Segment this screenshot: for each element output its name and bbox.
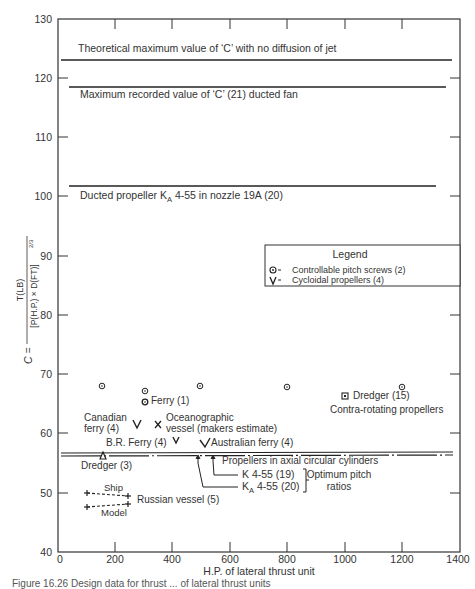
label-optimum-2: ratios: [327, 481, 351, 492]
label-oceanographic-1: Oceanographic: [166, 412, 234, 423]
v-marker: [133, 420, 141, 428]
x-axis-label: H.P. of lateral thrust unit: [203, 565, 314, 577]
svg-text:T(LB): T(LB): [15, 279, 25, 302]
svg-text:1200: 1200: [390, 553, 414, 565]
label-ship: Ship: [104, 482, 123, 493]
label-canadian-1: Canadian: [84, 412, 127, 423]
oceanographic-x-marker: [155, 421, 161, 428]
label-contra-rotating: Contra-rotating propellers: [330, 404, 443, 415]
ref-label-ducted: Ducted propeller KA 4-55 in nozzle 19A (…: [80, 189, 283, 204]
x-tick-labels: 0 200 400 600 800 1000 1200 1400: [57, 553, 470, 565]
label-ka455-20: KA 4-55 (20): [242, 480, 300, 495]
svg-text:130: 130: [34, 13, 52, 25]
svg-text:50: 50: [40, 487, 52, 499]
svg-text:1000: 1000: [333, 553, 357, 565]
v-marker: [173, 437, 179, 443]
svg-text:90: 90: [40, 250, 52, 262]
svg-text:100: 100: [34, 190, 52, 202]
svg-text:[P(H.P.) × D(FT)]: [P(H.P.) × D(FT)]: [29, 264, 39, 327]
svg-text:0: 0: [57, 553, 63, 565]
label-optimum-1: Optimum pitch: [307, 469, 371, 480]
label-oceanographic-2: vessel (makers estimate): [166, 423, 277, 434]
v-marker: [200, 438, 210, 447]
svg-text:400: 400: [163, 553, 181, 565]
label-australian-ferry: Australian ferry (4): [211, 437, 293, 448]
svg-text:800: 800: [278, 553, 296, 565]
label-k455-19: K 4-55 (19): [242, 468, 295, 480]
circle-dot-marker: [399, 384, 405, 390]
ref-label-theoretical: Theoretical maximum value of ‘C’ with no…: [78, 42, 337, 54]
svg-text:110: 110: [35, 131, 52, 143]
label-russian-vessel: Russian vessel (5): [137, 494, 219, 505]
y-axis-label: C = T(LB) [P(H.P.) × D(FT)] 2/3: [15, 236, 39, 364]
figure-caption: Figure 16.26 Design data for thrust ... …: [12, 578, 270, 589]
svg-text:120: 120: [34, 72, 52, 84]
legend-title: Legend: [332, 248, 367, 260]
label-dredger-3: Dredger (3): [81, 460, 132, 471]
circle-dot-marker: [99, 383, 105, 389]
dredger-15-marker: [342, 393, 348, 399]
svg-text:600: 600: [221, 553, 239, 565]
svg-text:C =: C =: [22, 347, 34, 364]
ferry-marker: [142, 399, 148, 405]
svg-text:60: 60: [40, 427, 52, 439]
left-ticks: [58, 78, 68, 493]
legend-label-cp: Controllable pitch screws (2): [292, 265, 406, 275]
label-model: Model: [101, 507, 127, 518]
svg-text:1400: 1400: [446, 553, 470, 565]
legend-label-cyc: Cycloidal propellers (4): [292, 275, 384, 285]
legend: Legend Controllable pitch screws (2) Cyc…: [265, 245, 460, 286]
ref-label-recorded: Maximum recorded value of ‘C’ (21) ducte…: [80, 88, 298, 100]
svg-text:70: 70: [40, 368, 52, 380]
svg-text:80: 80: [40, 309, 52, 321]
label-dredger-15: Dredger (15): [353, 390, 410, 401]
circle-dot-marker: [142, 388, 148, 394]
circle-dot-marker: [284, 384, 290, 390]
label-br-ferry: B.R. Ferry (4): [106, 437, 167, 448]
circle-dot-marker: [197, 383, 203, 389]
svg-text:200: 200: [106, 553, 124, 565]
label-canadian-2: ferry (4): [84, 423, 119, 434]
svg-text:2/3: 2/3: [28, 239, 34, 248]
bottom-ticks: [115, 542, 402, 552]
svg-text:40: 40: [40, 546, 52, 558]
top-ticks: [115, 19, 402, 29]
label-axial-cylinders: Propellers in axial circular cylinders: [222, 455, 378, 466]
label-ferry-1: Ferry (1): [151, 395, 189, 406]
